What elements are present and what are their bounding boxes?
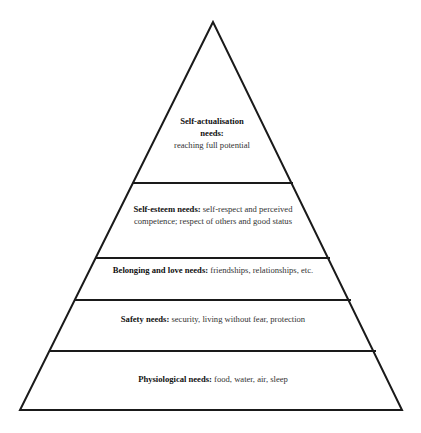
level-description: reaching full potential [174,140,250,150]
level-heading: Physiological needs: [138,374,212,384]
level-description: food, water, air, sleep [214,374,288,384]
level-heading: Self-esteem needs: [134,204,201,214]
level-heading: Self-actualisation needs: [180,116,244,138]
level-physiological: Physiological needs: food, water, air, s… [60,373,366,385]
level-description: security, living without fear, protectio… [171,314,305,324]
level-belonging-love: Belonging and love needs: friendships, r… [100,264,326,276]
level-description: friendships, relationships, etc. [210,265,313,275]
level-safety: Safety needs: security, living without f… [70,313,356,325]
level-self-actualisation: Self-actualisation needs: reaching full … [172,115,252,151]
level-heading: Belonging and love needs: [113,265,208,275]
level-self-esteem: Self-esteem needs: self-respect and perc… [133,203,293,227]
level-heading: Safety needs: [121,314,169,324]
